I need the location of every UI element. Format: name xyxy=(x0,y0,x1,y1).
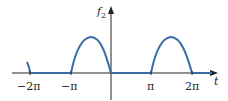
tick-label-pi: π xyxy=(147,81,154,92)
y-axis-arrow-icon xyxy=(108,6,114,14)
curve-arch-1 xyxy=(71,37,111,73)
tick-label-neg-2pi: −2π xyxy=(17,81,40,92)
tick-label-neg-pi: −π xyxy=(61,81,77,92)
tick-label-2pi: 2π xyxy=(185,81,199,92)
y-axis-label: f2 xyxy=(97,6,106,20)
curve-arch-2 xyxy=(151,37,192,73)
y-axis-label-sub: 2 xyxy=(101,11,106,20)
x-axis-label: t xyxy=(214,76,218,87)
